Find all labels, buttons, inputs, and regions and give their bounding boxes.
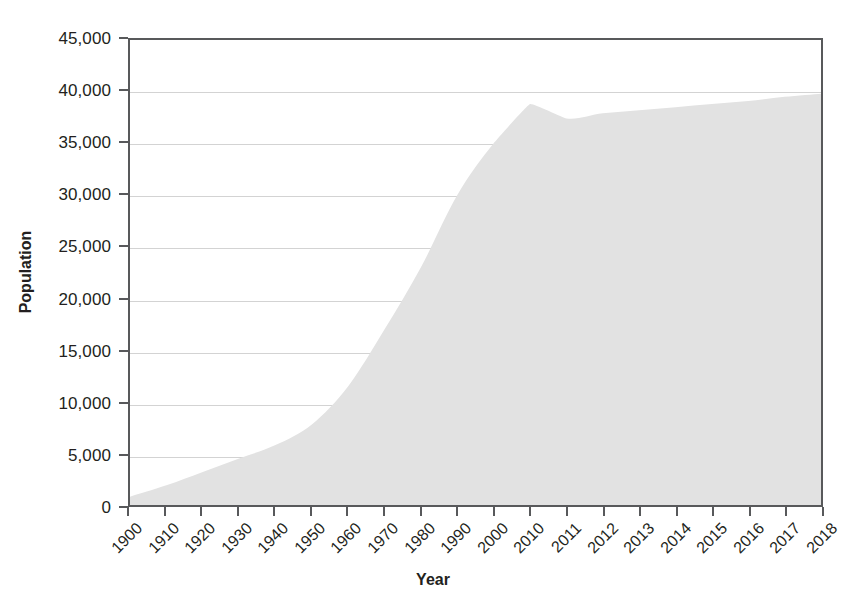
y-tick-label: 5,000	[68, 446, 111, 463]
x-tick-mark	[822, 507, 824, 516]
area-path	[130, 94, 821, 505]
plot-area	[128, 38, 823, 507]
x-tick-mark	[566, 507, 568, 516]
x-tick-mark	[237, 507, 239, 516]
x-tick-label: 1930	[219, 520, 255, 556]
x-tick-label: 2013	[621, 520, 657, 556]
x-tick-mark	[676, 507, 678, 516]
x-tick-label: 1940	[255, 520, 291, 556]
x-tick-label: 2010	[511, 520, 547, 556]
chart-figure: Population 45,00040,00035,00030,00025,00…	[0, 0, 866, 613]
x-tick-label: 1970	[365, 520, 401, 556]
y-tick-mark	[119, 298, 128, 300]
x-tick-label: 2011	[549, 520, 585, 556]
y-tick-label: 45,000	[58, 30, 111, 47]
x-tick-mark	[200, 507, 202, 516]
x-tick-label: 1900	[109, 520, 145, 556]
x-tick-mark	[383, 507, 385, 516]
y-tick-mark	[119, 245, 128, 247]
y-tick-label: 30,000	[58, 186, 111, 203]
x-tick-label: 1960	[328, 520, 364, 556]
x-tick-mark	[273, 507, 275, 516]
x-tick-mark	[639, 507, 641, 516]
x-tick-mark	[749, 507, 751, 516]
y-tick-mark	[119, 402, 128, 404]
x-tick-label: 2018	[804, 520, 840, 556]
x-tick-mark	[310, 507, 312, 516]
x-axis-title: Year	[0, 571, 866, 589]
x-tick-label: 1950	[292, 520, 328, 556]
x-tick-label: 2000	[475, 520, 511, 556]
x-tick-mark	[712, 507, 714, 516]
x-tick-mark	[346, 507, 348, 516]
x-tick-label: 2014	[658, 520, 694, 556]
x-tick-mark	[420, 507, 422, 516]
x-tick-label: 1980	[401, 520, 437, 556]
y-axis-title: Population	[17, 231, 35, 314]
y-tick-mark	[119, 89, 128, 91]
y-tick-label: 10,000	[58, 394, 111, 411]
x-tick-mark	[493, 507, 495, 516]
x-tick-label: 2016	[731, 520, 767, 556]
x-tick-label: 1910	[145, 520, 181, 556]
y-tick-label: 25,000	[58, 238, 111, 255]
y-tick-mark	[119, 454, 128, 456]
y-tick-mark	[119, 193, 128, 195]
x-tick-label: 2012	[584, 520, 620, 556]
y-axis: Population 45,00040,00035,00030,00025,00…	[0, 0, 128, 545]
x-tick-mark	[456, 507, 458, 516]
y-tick-mark	[119, 350, 128, 352]
x-tick-mark	[164, 507, 166, 516]
x-tick-mark	[529, 507, 531, 516]
x-tick-label: 1920	[182, 520, 218, 556]
y-tick-label: 15,000	[58, 342, 111, 359]
y-tick-label: 35,000	[58, 134, 111, 151]
x-tick-label: 2015	[694, 520, 730, 556]
y-tick-label: 40,000	[58, 82, 111, 99]
y-tick-mark	[119, 141, 128, 143]
area-series-population	[130, 40, 821, 505]
x-tick-label: 2017	[767, 520, 803, 556]
x-tick-label: 1990	[438, 520, 474, 556]
x-tick-mark	[127, 507, 129, 516]
x-tick-mark	[603, 507, 605, 516]
y-tick-label: 20,000	[58, 290, 111, 307]
y-tick-mark	[119, 37, 128, 39]
x-tick-mark	[785, 507, 787, 516]
x-axis: Year 19001910192019301940195019601970198…	[0, 507, 866, 613]
